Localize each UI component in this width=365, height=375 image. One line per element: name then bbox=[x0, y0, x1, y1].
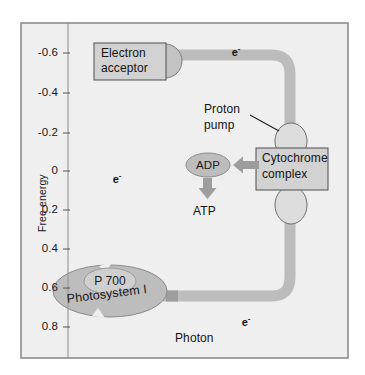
y-tick-label: -0.4 bbox=[22, 86, 58, 99]
photon-label: Photon bbox=[175, 332, 214, 345]
y-tick-label: -0.6 bbox=[22, 46, 58, 59]
electron-acceptor-label-line2: acceptor bbox=[101, 62, 148, 75]
electron-marker: e- bbox=[229, 303, 251, 341]
electron-marker: e- bbox=[219, 33, 241, 71]
y-tick-label: -0.2 bbox=[22, 126, 58, 139]
cytochrome-complex-label-line1: Cytochrome bbox=[262, 152, 328, 165]
electron-marker-charge: - bbox=[248, 314, 251, 323]
y-tick-label: 0.4 bbox=[22, 242, 58, 255]
electron-marker: e- bbox=[100, 160, 122, 198]
y-tick-label: 0.8 bbox=[22, 320, 58, 333]
cytochrome-complex-label-line2: complex bbox=[262, 168, 307, 181]
electron-marker-charge: - bbox=[238, 44, 241, 53]
atp-label: ATP bbox=[193, 205, 216, 218]
proton-pump-label-line2: pump bbox=[204, 119, 234, 132]
y-axis-title: Free energy bbox=[37, 174, 49, 232]
cyclic-electron-flow-figure: -0.6 -0.4 -0.2 0 0.2 0.4 0.6 0.8 Free en… bbox=[0, 0, 365, 375]
adp-label: ADP bbox=[186, 159, 230, 172]
y-tick-label: 0.6 bbox=[22, 281, 58, 294]
electron-acceptor-label-line1: Electron bbox=[101, 47, 146, 60]
proton-pump-label-line1: Proton bbox=[204, 103, 240, 116]
electron-marker-charge: - bbox=[119, 171, 122, 180]
